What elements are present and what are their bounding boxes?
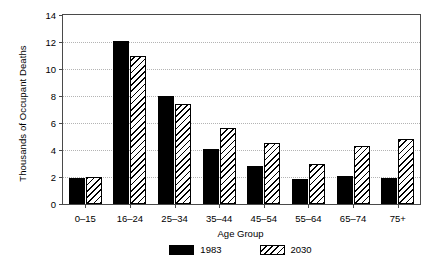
x-axis-tick-label: 0–15 (75, 213, 96, 224)
y-axis-tick-label: 6 (51, 118, 56, 129)
bar-2030-75+ (398, 139, 414, 204)
legend-entry-1983: 1983 (169, 244, 221, 255)
x-axis-tick (85, 204, 86, 208)
y-axis-tick-label: 8 (51, 91, 56, 102)
legend-swatch-2030 (260, 245, 285, 255)
x-axis-tick-label: 55–64 (295, 213, 321, 224)
x-axis-tick-label: 35–44 (206, 213, 232, 224)
y-axis-tick-label: 14 (45, 10, 56, 21)
x-axis-tick-label: 16–24 (117, 213, 143, 224)
x-axis-tick-label: 25–34 (161, 213, 187, 224)
y-axis-title: Thousands of Occupant Deaths (17, 19, 28, 209)
y-axis-tick-label: 10 (45, 64, 56, 75)
x-axis-tick (130, 204, 131, 208)
legend-entry-2030: 2030 (260, 244, 312, 255)
y-axis-tick-label: 2 (51, 172, 56, 183)
legend-label-2030: 2030 (291, 244, 312, 255)
plot-area: 02468101214 0–1516–2425–3435–4445–5455–6… (62, 14, 421, 205)
x-axis-tick (219, 204, 220, 208)
y-axis-tick-label: 12 (45, 37, 56, 48)
x-axis-tick (398, 204, 399, 208)
chart-legend: 19832030 (62, 244, 419, 255)
x-axis-tick (264, 204, 265, 208)
x-axis-tick (308, 204, 309, 208)
legend-label-1983: 1983 (200, 244, 221, 255)
y-axis-tick-label: 4 (51, 145, 56, 156)
bar-series-container (63, 15, 420, 204)
y-axis-tick-label: 0 (51, 199, 56, 210)
legend-swatch-1983 (169, 245, 194, 255)
bar-1983-75+ (381, 178, 397, 204)
x-axis-title: Age Group (62, 228, 419, 239)
x-axis-tick-label: 65–74 (340, 213, 366, 224)
x-axis-tick-label: 75+ (390, 213, 406, 224)
bar-chart-figure: Thousands of Occupant Deaths 02468101214… (0, 0, 436, 272)
x-axis-tick (353, 204, 354, 208)
y-axis-tick (59, 204, 63, 205)
bar-group (63, 15, 420, 204)
x-axis-tick-label: 45–54 (251, 213, 277, 224)
x-axis-tick (175, 204, 176, 208)
